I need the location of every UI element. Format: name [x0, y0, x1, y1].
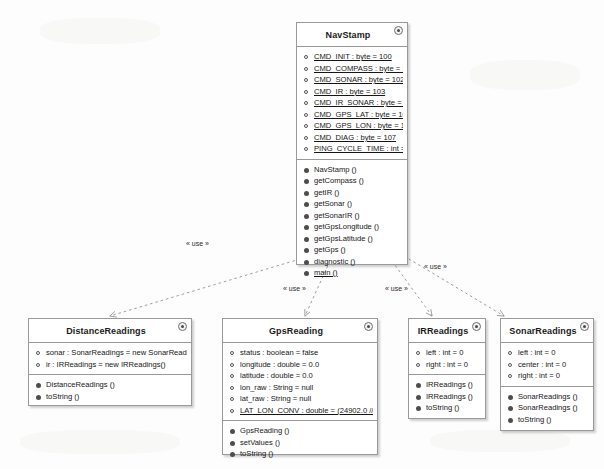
class-badge-icon	[178, 322, 187, 331]
operation-row: toString ()	[413, 402, 481, 414]
operation-row: toString ()	[227, 448, 373, 460]
operation-row: main ()	[301, 267, 403, 279]
operations-compartment-distancereadings: DistanceReadings () toString ()	[29, 374, 191, 406]
class-box-sonarreadings[interactable]: SonarReadings left : int = 0 center : in…	[500, 318, 594, 431]
operation-row: GpsReading ()	[227, 425, 373, 437]
use-label-distancereadings: « use »	[186, 240, 209, 247]
class-name-distancereadings: DistanceReadings	[66, 326, 146, 336]
class-header-navstamp: NavStamp	[297, 23, 407, 47]
class-badge-icon	[394, 26, 403, 35]
dependency-navstamp-sonarreadings	[404, 256, 504, 316]
operation-row: toString ()	[505, 414, 589, 426]
class-header-sonarreadings: SonarReadings	[501, 319, 593, 343]
operation-row: SonarReadings ()	[505, 391, 589, 403]
paper-smudge	[430, 430, 570, 452]
class-name-gpsreading: GpsReading	[269, 326, 323, 336]
operation-row: getSonar ()	[301, 198, 403, 210]
class-name-irreadings: IRReadings	[418, 326, 469, 336]
class-header-irreadings: IRReadings	[409, 319, 485, 343]
operation-row: NavStamp ()	[301, 164, 403, 176]
operation-row: SonarReadings ()	[505, 402, 589, 414]
class-name-navstamp: NavStamp	[326, 30, 371, 40]
operation-row: getGps ()	[301, 244, 403, 256]
paper-smudge	[470, 60, 580, 90]
attribute-row: left : int = 0	[505, 347, 589, 359]
use-label-sonarreadings: « use »	[424, 263, 447, 270]
attribute-row: CMD_IR_SONAR : byte = 104	[301, 97, 403, 109]
attribute-row: CMD_IR : byte = 103	[301, 86, 403, 98]
operations-compartment-navstamp: NavStamp () getCompass () getIR () getSo…	[297, 159, 407, 283]
attribute-row: center : int = 0	[505, 359, 589, 371]
attribute-row: LAT_LON_CONV : double = (24902.0 // mile…	[227, 405, 373, 417]
use-label-gpsreading: « use »	[283, 285, 306, 292]
class-box-gpsreading[interactable]: GpsReading status : boolean = false long…	[222, 318, 378, 455]
operation-row: getSonarIR ()	[301, 210, 403, 222]
operations-compartment-gpsreading: GpsReading () setValues () toString ()	[223, 420, 377, 464]
attribute-row: CMD_GPS_LON : byte = 106	[301, 120, 403, 132]
attributes-compartment-distancereadings: sonar : SonarReadings = new SonarReading…	[29, 343, 191, 374]
paper-smudge	[40, 18, 160, 44]
attribute-row: CMD_DIAG : byte = 107	[301, 132, 403, 144]
operations-compartment-irreadings: IRReadings () IRReadings () toString ()	[409, 374, 485, 418]
attribute-row: CMD_INIT : byte = 100	[301, 51, 403, 63]
class-box-irreadings[interactable]: IRReadings left : int = 0 right : int = …	[408, 318, 486, 419]
attribute-row: left : int = 0	[413, 347, 481, 359]
operation-row: getGpsLatitude ()	[301, 233, 403, 245]
attributes-compartment-gpsreading: status : boolean = false longitude : dou…	[223, 343, 377, 420]
attribute-row: right : int = 0	[505, 370, 589, 382]
operation-row: IRReadings ()	[413, 391, 481, 403]
dependency-navstamp-distancereadings	[110, 259, 300, 316]
class-name-sonarreadings: SonarReadings	[509, 326, 576, 336]
attributes-compartment-navstamp: CMD_INIT : byte = 100 CMD_COMPASS : byte…	[297, 47, 407, 159]
attribute-row: longitude : double = 0.0	[227, 359, 373, 371]
class-header-distancereadings: DistanceReadings	[29, 319, 191, 343]
attribute-row: lat_raw : String = null	[227, 393, 373, 405]
attribute-row: lon_raw : String = null	[227, 382, 373, 394]
operation-row: diagnostic ()	[301, 256, 403, 268]
class-badge-icon	[580, 322, 589, 331]
attribute-row: ir : IRReadings = new IRReadings()	[33, 359, 187, 371]
operation-row: getCompass ()	[301, 175, 403, 187]
operation-row: IRReadings ()	[413, 379, 481, 391]
attributes-compartment-sonarreadings: left : int = 0 center : int = 0 right : …	[501, 343, 593, 386]
operation-row: getIR ()	[301, 187, 403, 199]
attribute-row: status : boolean = false	[227, 347, 373, 359]
class-header-gpsreading: GpsReading	[223, 319, 377, 343]
attribute-row: CMD_SONAR : byte = 102	[301, 74, 403, 86]
attribute-row: PING_CYCLE_TIME : int = 200	[301, 143, 403, 155]
attribute-row: sonar : SonarReadings = new SonarReading…	[33, 347, 187, 359]
attribute-row: right : int = 0	[413, 359, 481, 371]
operations-compartment-sonarreadings: SonarReadings () SonarReadings () toStri…	[501, 386, 593, 430]
attribute-row: latitude : double = 0.0	[227, 370, 373, 382]
operation-row: toString ()	[33, 391, 187, 403]
class-box-distancereadings[interactable]: DistanceReadings sonar : SonarReadings =…	[28, 318, 192, 406]
attributes-compartment-irreadings: left : int = 0 right : int = 0	[409, 343, 485, 374]
class-badge-icon	[364, 322, 373, 331]
paper-smudge	[20, 430, 180, 454]
class-box-navstamp[interactable]: NavStamp CMD_INIT : byte = 100 CMD_COMPA…	[296, 22, 408, 265]
uml-diagram-canvas: « use » « use » « use » « use » NavStamp…	[0, 0, 604, 469]
class-badge-icon	[472, 322, 481, 331]
operation-row: DistanceReadings ()	[33, 379, 187, 391]
attribute-row: CMD_COMPASS : byte = 101	[301, 63, 403, 75]
operation-row: setValues ()	[227, 437, 373, 449]
use-label-irreadings: « use »	[385, 285, 408, 292]
operation-row: getGpsLongitude ()	[301, 221, 403, 233]
attribute-row: CMD_GPS_LAT : byte = 105	[301, 109, 403, 121]
